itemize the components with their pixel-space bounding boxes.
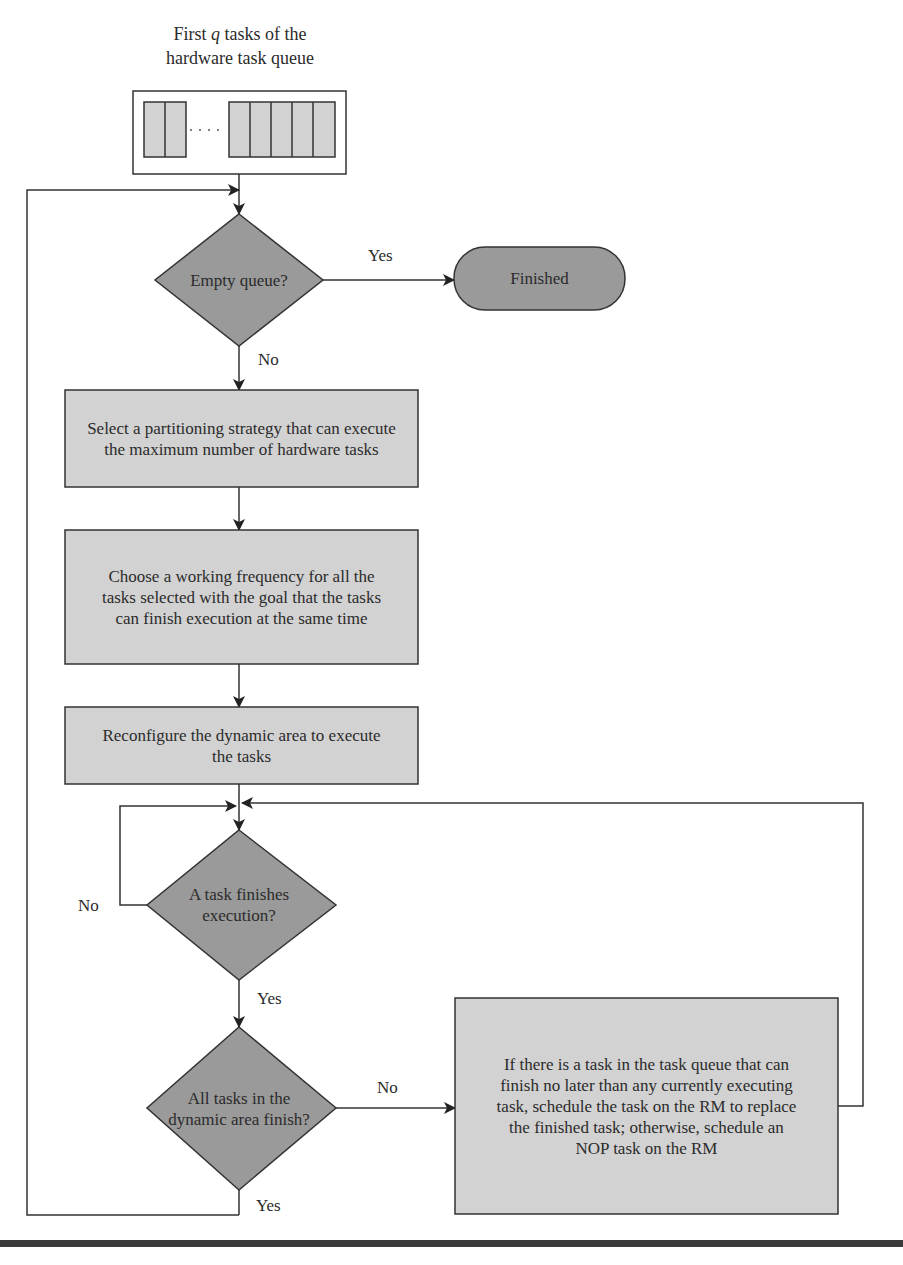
process-choose-frequency-label: Choose a working frequency for all the t…	[95, 566, 388, 629]
decision-all-finish: All tasks in the dynamic area finish?	[160, 1075, 318, 1143]
decision-empty-queue: Empty queue?	[165, 260, 313, 300]
queue-caption-variable: q	[211, 24, 220, 44]
edge-label-task-no: No	[78, 896, 99, 916]
decision-all-finish-label: All tasks in the dynamic area finish?	[160, 1088, 318, 1130]
decision-task-finishes: A task finishes execution?	[172, 880, 306, 930]
process-select-strategy-label: Select a partitioning strategy that can …	[85, 418, 398, 460]
terminal-finished: Finished	[454, 247, 625, 310]
queue-caption-line2: hardware task queue	[166, 48, 314, 68]
task-queue-graphic	[133, 91, 346, 174]
queue-caption: First q tasks of the hardware task queue	[120, 22, 360, 70]
process-select-strategy: Select a partitioning strategy that can …	[85, 390, 398, 487]
process-reconfigure-label: Reconfigure the dynamic area to execute …	[100, 725, 383, 767]
queue-caption-prefix: First	[174, 24, 212, 44]
process-schedule-label: If there is a task in the task queue tha…	[495, 1054, 798, 1159]
edge-label-all-no: No	[377, 1078, 398, 1098]
decision-empty-queue-label: Empty queue?	[190, 270, 288, 291]
terminal-finished-label: Finished	[510, 268, 569, 289]
queue-caption-suffix: tasks of the	[220, 24, 306, 44]
process-choose-frequency: Choose a working frequency for all the t…	[95, 530, 388, 664]
process-schedule: If there is a task in the task queue tha…	[495, 998, 798, 1214]
process-reconfigure: Reconfigure the dynamic area to execute …	[100, 707, 383, 784]
edge-label-all-yes: Yes	[256, 1196, 281, 1216]
decision-task-finishes-label: A task finishes execution?	[172, 884, 306, 926]
edge-label-empty-yes: Yes	[368, 246, 393, 266]
edge-label-task-yes: Yes	[257, 989, 282, 1009]
edge-label-empty-no: No	[258, 350, 279, 370]
figure-bottom-rule	[0, 1240, 903, 1247]
